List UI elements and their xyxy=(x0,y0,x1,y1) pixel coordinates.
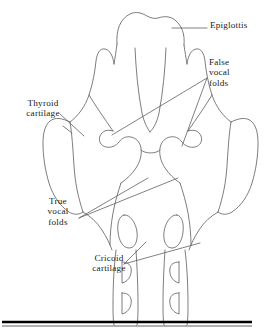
larynx-diagram xyxy=(0,0,280,329)
label-epiglottis: Epiglottis xyxy=(210,20,248,30)
label-cricoid-cartilage: Cricoid cartilage xyxy=(76,253,142,274)
arytenoid-left xyxy=(89,95,113,131)
epiglottis-right-edge xyxy=(184,45,187,64)
label-true-vocal-folds: True vocal folds xyxy=(36,196,80,227)
thyroid-cartilage-right xyxy=(218,118,258,214)
cricoid-right-wall xyxy=(180,183,191,245)
aryepiglottic-fold-left xyxy=(70,49,114,122)
epiglottis-left-edge xyxy=(114,44,117,64)
tracheal-ring-right-2 xyxy=(170,293,179,314)
interarytenoid-wedge-right xyxy=(150,48,166,132)
leader-false-left xyxy=(112,78,207,135)
leader-true-right xyxy=(79,178,178,218)
tracheal-ring-right-1 xyxy=(170,262,179,283)
glottic-opening xyxy=(141,150,160,153)
vocal-fold-hook-right xyxy=(160,130,202,183)
larynx-figure: Epiglottis False vocal folds Thyroid car… xyxy=(0,0,280,329)
interarytenoid-wedge-left xyxy=(135,48,150,132)
thyroid-cartilage-right-inner xyxy=(218,122,231,212)
epiglottis-outline xyxy=(117,13,184,45)
trachea-right-inner xyxy=(163,250,165,325)
arytenoid-right xyxy=(188,95,212,131)
vocal-fold-hook-left xyxy=(99,130,141,183)
label-thyroid-cartilage: Thyroid cartilage xyxy=(10,98,76,119)
leader-false-right xyxy=(182,78,207,146)
cricoid-left-outer xyxy=(83,212,112,250)
tracheal-ring-left-2 xyxy=(122,293,131,314)
trachea-right-outer xyxy=(185,250,188,325)
cricoid-left-wall xyxy=(110,183,121,245)
cricoid-cartilage-right xyxy=(164,215,183,248)
label-false-vocal-folds: False vocal folds xyxy=(209,57,230,88)
cricoid-cartilage-left xyxy=(118,215,137,248)
cricoid-right-outer xyxy=(189,212,218,250)
